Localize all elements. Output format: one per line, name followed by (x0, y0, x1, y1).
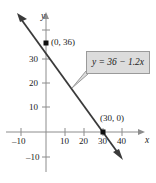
graph-figure: y x –10 10 20 30 40 10 20 30 –10 (0, 36)… (0, 0, 156, 183)
y-tick-label-10: 10 (29, 103, 38, 112)
x-tick-label-40: 40 (117, 137, 126, 146)
x-axis (6, 129, 145, 135)
coordinate-plane (0, 0, 156, 183)
data-point-marker-x-intercept (101, 130, 106, 135)
y-tick-label-20: 20 (29, 79, 38, 88)
y-axis-label: y (41, 12, 45, 22)
y-tick-label-minus10: –10 (26, 153, 40, 162)
x-tick-label-20: 20 (79, 137, 88, 146)
x-axis-label: x (145, 136, 149, 146)
equation-text: y = 36 − 1.2x (92, 58, 144, 68)
x-tick-label-minus10: –10 (12, 137, 26, 146)
point-label-y-intercept: (0, 36) (51, 38, 75, 47)
y-tick-label-30: 30 (29, 55, 38, 64)
equation-callout-box: y = 36 − 1.2x (86, 51, 150, 74)
x-tick-label-10: 10 (60, 137, 69, 146)
data-point-marker-y-intercept (44, 41, 49, 46)
point-label-x-intercept: (30, 0) (100, 114, 124, 123)
x-tick-label-30: 30 (98, 137, 107, 146)
y-axis (43, 12, 49, 172)
